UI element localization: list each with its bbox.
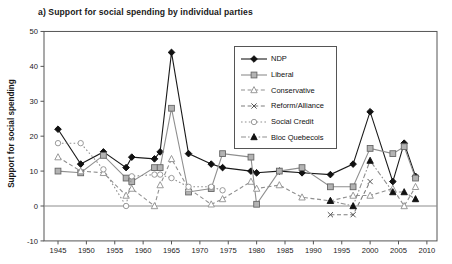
data-point-marker: [123, 175, 129, 181]
data-point-marker: [101, 167, 106, 172]
data-point-marker: [123, 164, 130, 171]
data-point-marker: [367, 146, 373, 152]
data-point-marker: [299, 194, 305, 200]
x-tick-label: 1960: [135, 246, 152, 255]
x-tick-label: 1985: [277, 246, 294, 255]
x-tick-label: 1965: [163, 246, 180, 255]
x-tick-label: 1945: [50, 246, 67, 255]
legend-item-social-credit: Social Credit: [241, 114, 336, 130]
data-point-marker: [77, 161, 84, 168]
data-point-marker: [168, 155, 174, 161]
data-point-marker: [248, 154, 254, 160]
data-point-marker: [169, 105, 175, 111]
legend-marker-liberal: [241, 70, 267, 80]
legend-item-label: NDP: [271, 54, 287, 63]
data-point-marker: [220, 188, 225, 193]
x-tick-label: 2010: [418, 246, 435, 255]
legend-item-label: Conservative: [271, 86, 315, 95]
x-tick-label: 1975: [220, 246, 237, 255]
data-point-marker: [350, 192, 356, 198]
data-point-marker: [368, 179, 373, 184]
y-tick-label: 10: [30, 167, 38, 176]
data-point-marker: [186, 184, 191, 189]
legend-marker-ndp: [241, 54, 267, 64]
legend-marker-reform-alliance: [241, 101, 267, 111]
data-point-marker: [412, 196, 418, 202]
chart: a) Support for social spending by indivi…: [0, 0, 452, 264]
data-point-marker: [157, 182, 163, 188]
data-point-marker: [367, 157, 373, 163]
legend: NDPLiberalConservativeReform/AllianceSoc…: [234, 46, 337, 149]
x-tick-label: 1980: [248, 246, 265, 255]
x-tick-label: 2000: [362, 246, 379, 255]
x-tick-label: 1990: [305, 246, 322, 255]
legend-item-bloc-quebecois: Bloc Quebecois: [241, 129, 336, 145]
y-tick-label: -10: [27, 237, 38, 246]
x-tick-label: 1970: [191, 246, 208, 255]
data-point-marker: [327, 171, 334, 178]
data-point-marker: [390, 151, 396, 157]
data-point-marker: [276, 168, 282, 174]
data-point-marker: [219, 196, 225, 202]
data-point-marker: [157, 172, 162, 177]
data-point-marker: [185, 150, 192, 157]
legend-item-liberal: Liberal: [241, 67, 336, 83]
data-point-marker: [251, 72, 257, 78]
plot-area: 50403020100-1019451950195519601965197019…: [0, 0, 452, 264]
y-tick-label: 50: [30, 27, 38, 36]
data-point-marker: [328, 184, 334, 190]
data-point-marker: [152, 165, 158, 171]
legend-marker-bloc-quebecois: [241, 132, 267, 142]
data-point-marker: [299, 165, 305, 171]
data-point-marker: [101, 152, 107, 158]
data-point-marker: [55, 168, 61, 174]
x-tick-label: 1955: [106, 246, 123, 255]
x-tick-label: 1995: [333, 246, 350, 255]
data-point-marker: [169, 175, 174, 180]
legend-marker-social-credit: [241, 117, 267, 127]
data-point-marker: [220, 151, 226, 157]
data-point-marker: [367, 108, 374, 115]
data-point-marker: [412, 183, 418, 189]
data-point-marker: [129, 179, 135, 185]
legend-item-conservative: Conservative: [241, 82, 336, 98]
data-point-marker: [251, 119, 256, 124]
legend-item-label: Liberal: [271, 70, 294, 79]
series-line-bloc-quebecois: [330, 161, 415, 206]
legend-item-reform-alliance: Reform/Alliance: [241, 98, 336, 114]
data-point-marker: [157, 165, 163, 171]
legend-item-label: Bloc Quebecois: [271, 133, 324, 142]
data-point-marker: [350, 161, 357, 168]
data-point-marker: [276, 182, 282, 188]
data-point-marker: [401, 144, 407, 150]
legend-item-ndp: NDP: [241, 51, 336, 67]
data-point-marker: [55, 140, 60, 145]
data-point-marker: [55, 126, 62, 133]
data-point-marker: [251, 56, 258, 63]
data-point-marker: [152, 172, 157, 177]
y-tick-label: 20: [30, 132, 38, 141]
data-point-marker: [254, 201, 260, 207]
data-point-marker: [78, 140, 83, 145]
x-tick-label: 2005: [390, 246, 407, 255]
legend-item-label: Social Credit: [271, 117, 314, 126]
y-tick-label: 30: [30, 97, 38, 106]
x-tick-label: 1950: [78, 246, 95, 255]
data-point-marker: [128, 154, 135, 161]
legend-marker-conservative: [241, 85, 267, 95]
data-point-marker: [168, 49, 175, 56]
data-point-marker: [208, 201, 214, 207]
data-point-marker: [55, 154, 61, 160]
data-point-marker: [129, 174, 134, 179]
data-point-marker: [350, 184, 356, 190]
data-point-marker: [123, 203, 128, 208]
series-bloc-quebecois: [327, 157, 419, 208]
data-point-marker: [219, 164, 226, 171]
data-point-marker: [413, 175, 419, 181]
data-point-marker: [209, 184, 214, 189]
data-point-marker: [390, 178, 397, 185]
y-tick-label: 0: [34, 202, 38, 211]
legend-item-label: Reform/Alliance: [271, 101, 324, 110]
data-point-marker: [208, 161, 215, 168]
y-tick-label: 40: [30, 62, 38, 71]
